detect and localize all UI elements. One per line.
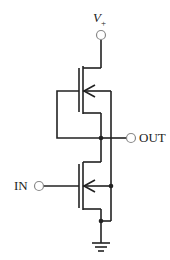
- junction-dot: [99, 219, 104, 224]
- nmos-transistor: [79, 162, 111, 210]
- supply-terminal: [97, 31, 106, 40]
- input-label: IN: [14, 178, 28, 194]
- input-terminal: [35, 182, 44, 191]
- junction-dot: [99, 136, 104, 141]
- output-terminal: [127, 134, 136, 143]
- pmos-transistor: [79, 66, 111, 114]
- junction-dot: [109, 184, 114, 189]
- output-label: OUT: [139, 130, 166, 146]
- supply-label: V+: [93, 10, 106, 28]
- ground-icon: [92, 243, 110, 251]
